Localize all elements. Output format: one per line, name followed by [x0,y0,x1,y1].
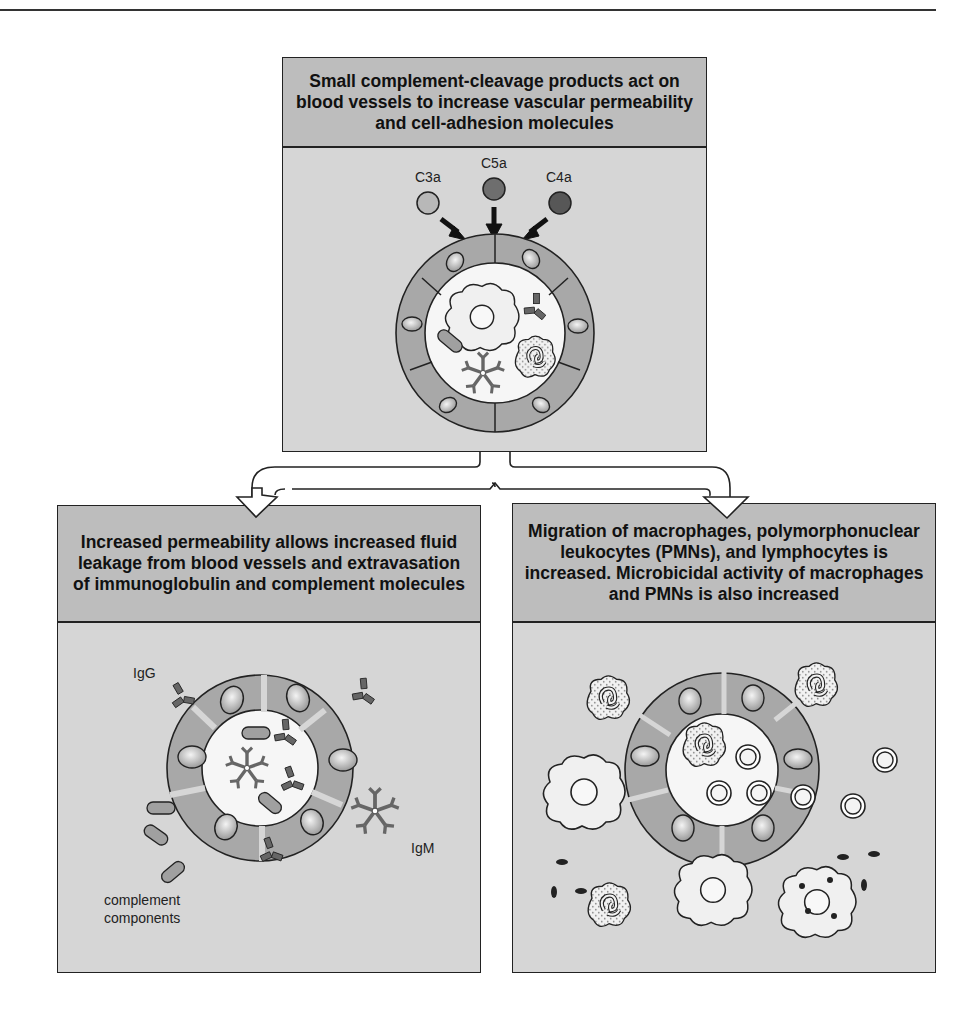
igg-label: IgG [133,665,156,681]
split-arrow [237,452,748,518]
c3a-molecule [417,192,439,214]
left-blood-vessel [142,675,399,885]
c5a-molecule [483,178,505,200]
top-blood-vessel [396,234,594,432]
c5a-label: C5a [481,155,507,171]
right-blood-vessel [543,663,897,937]
c4a-label: C4a [546,169,572,185]
igm-label: IgM [411,840,434,856]
c4a-molecule [549,192,571,214]
c3a-label: C3a [415,169,441,185]
complement-label-line1: complement [104,892,180,908]
complement-label-line2: components [104,910,180,926]
